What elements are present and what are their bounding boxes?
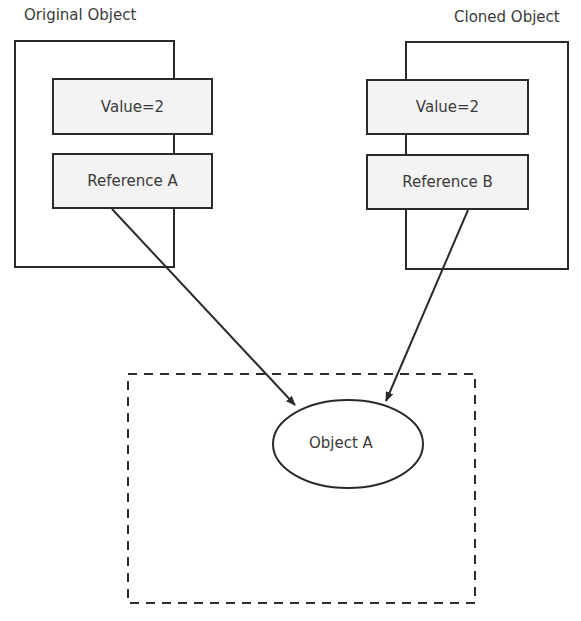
arrow-reference-a	[112, 209, 295, 405]
object-a-label: Object A	[309, 434, 373, 452]
arrow-reference-b	[386, 210, 468, 401]
connectors-layer	[0, 0, 581, 621]
